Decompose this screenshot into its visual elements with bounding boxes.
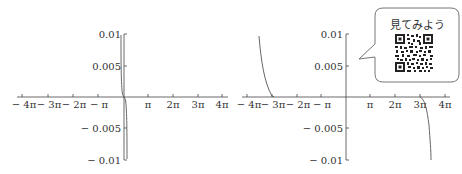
y-tick-label: 0.005 [92,61,121,72]
x-tick-label: − π [90,99,109,110]
qr-callout[interactable]: 見てみよう [359,8,459,82]
x-tick-label: π [367,99,374,110]
y-tick-label: − 0.005 [81,123,121,134]
y-tick-label: − 0.005 [303,123,343,134]
qr-code-icon[interactable] [395,34,433,72]
callout-label: 見てみよう [390,19,445,32]
x-tick-label: − 3π [37,99,62,110]
x-tick-label: 4π [439,99,452,110]
right-chart: − 4π − 3π − 2π − π π 2π 3π 4π 0.01 0.005… [237,8,459,166]
x-tick-label: − 4π [237,99,262,110]
x-tick-label: − 4π [12,99,37,110]
x-tick-label: 2π [167,99,180,110]
x-tick-label: 4π [216,99,229,110]
y-tick-label: 0.01 [99,29,121,40]
y-tick-label: − 0.01 [87,155,121,166]
x-tick-label: 2π [389,99,402,110]
figure: − 4π − 3π − 2π − π π 2π 3π 4π 0.01 0.005… [0,0,462,174]
left-chart: − 4π − 3π − 2π − π π 2π 3π 4π 0.01 0.005… [12,29,229,166]
curve-left-branch [259,36,274,97]
x-tick-label: − 2π [62,99,87,110]
y-tick-label: − 0.01 [309,155,343,166]
x-tick-label: − 3π [261,99,286,110]
y-tick-label: 0.01 [321,29,343,40]
y-tick-label: 0.005 [314,61,343,72]
x-tick-label: − 2π [286,99,311,110]
x-tick-label: π [145,99,152,110]
x-tick-label: − π [313,99,332,110]
x-tick-label: 3π [192,99,205,110]
